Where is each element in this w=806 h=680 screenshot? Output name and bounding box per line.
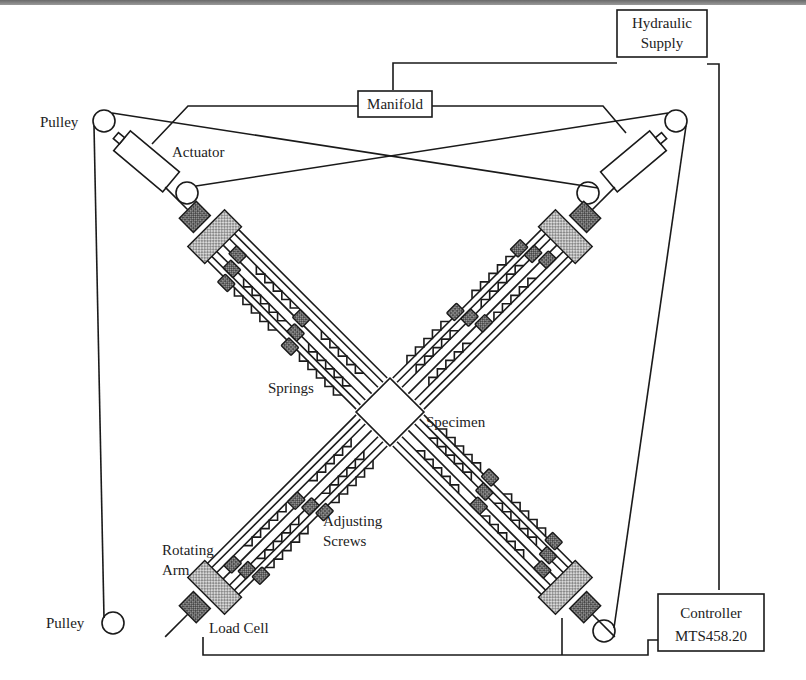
- arm-upper-left: [144, 169, 390, 415]
- hydraulic-line-manifold: [393, 63, 617, 90]
- controller-box: Controller MTS458.20: [658, 594, 764, 651]
- hydraulic-line-controller: [707, 64, 719, 590]
- specimen-label: Specimen: [426, 414, 486, 430]
- manifold-label: Manifold: [367, 96, 423, 112]
- pulley-bottom-left: [102, 612, 124, 634]
- controller-label-1: Controller: [680, 605, 742, 621]
- rotating-arm-label-1: Rotating: [162, 542, 214, 558]
- pulley-top-label: Pulley: [40, 114, 79, 130]
- diagram-canvas: Hydraulic Supply Manifold: [0, 0, 806, 680]
- pulley-top-left: [93, 110, 115, 132]
- arm-lower-right: [390, 409, 636, 655]
- pulley-top-right: [665, 110, 687, 132]
- cable-left: [94, 126, 104, 618]
- hydraulic-label-1: Hydraulic: [632, 15, 692, 31]
- springs-label: Springs: [268, 380, 314, 396]
- actuator-left: [108, 126, 180, 192]
- cable-right: [614, 126, 686, 628]
- manifold-box: Manifold: [358, 91, 432, 117]
- load-cell-label: Load Cell: [209, 620, 269, 636]
- actuator-right: [601, 126, 673, 192]
- cable-cross-2: [196, 113, 668, 186]
- pulley-bottom-label: Pulley: [46, 615, 85, 631]
- arm-upper-right: [387, 166, 633, 412]
- hydraulic-supply-box: Hydraulic Supply: [617, 10, 707, 57]
- adjusting-label-1: Adjusting: [323, 513, 383, 529]
- manifold-line-left: [152, 106, 358, 144]
- signal-line-bottom: [203, 637, 658, 655]
- controller-label-2: MTS458.20: [675, 628, 747, 644]
- hydraulic-label-2: Supply: [641, 35, 684, 51]
- adjusting-label-2: Screws: [323, 533, 366, 549]
- actuator-label: Actuator: [172, 144, 224, 160]
- rotating-arm-label-2: Arm: [162, 562, 190, 578]
- manifold-line-right: [432, 106, 626, 133]
- pulley-bottom-right: [593, 620, 615, 642]
